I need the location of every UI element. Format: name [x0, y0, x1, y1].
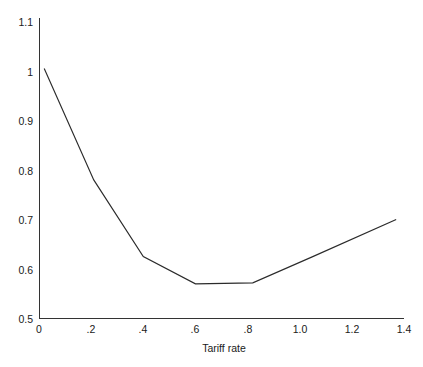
- y-tick-label: 1: [27, 66, 33, 78]
- y-tick-label: 0.7: [18, 214, 33, 226]
- data-series-line: [44, 69, 396, 284]
- chart-figure: 1.1 1 0.9 0.8 0.7 0.6 0.5 0 .2 .4 .6 .8 …: [0, 0, 423, 367]
- y-tick-label: 0.9: [18, 115, 33, 127]
- x-tick-label: 1.0: [293, 323, 308, 335]
- line-chart: 1.1 1 0.9 0.8 0.7 0.6 0.5 0 .2 .4 .6 .8 …: [0, 0, 423, 367]
- x-axis-title: Tariff rate: [202, 342, 246, 354]
- y-tick-label: 0.5: [18, 313, 33, 325]
- y-tick-label: 0.6: [18, 264, 33, 276]
- x-tick-label: 1.2: [345, 323, 360, 335]
- x-tick-label: 0: [36, 323, 42, 335]
- x-tick-label: 1.4: [397, 323, 412, 335]
- y-tick-label: 1.1: [18, 16, 33, 28]
- x-tick-label: .6: [191, 323, 200, 335]
- x-tick-label: .4: [139, 323, 148, 335]
- x-tick-label: .2: [87, 323, 96, 335]
- chart-axes: [40, 18, 405, 319]
- y-tick-label: 0.8: [18, 165, 33, 177]
- x-tick-label: .8: [244, 323, 253, 335]
